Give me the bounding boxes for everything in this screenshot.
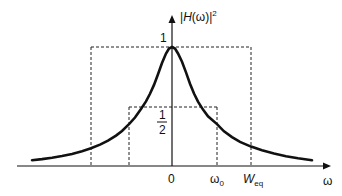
omega0-tick-label: ω0 [210,172,224,188]
weq-tick-label: Weq [243,172,263,188]
y-axis [169,15,176,166]
x-axis-label: ω [323,174,332,188]
svg-text:1: 1 [159,108,166,122]
svg-text:2: 2 [159,123,166,137]
half-level-label: 1 2 [157,108,167,137]
frequency-response-diagram: |H(ω)|2 1 1 2 0 ω0 Weq ω [0,0,342,196]
origin-tick-label: 0 [168,172,175,186]
half-power-rectangle [129,107,217,166]
x-axis [17,163,331,170]
y-axis-label: |H(ω)|2 [180,9,217,24]
peak-level-label: 1 [160,31,167,45]
